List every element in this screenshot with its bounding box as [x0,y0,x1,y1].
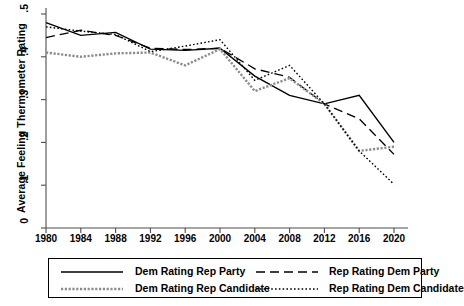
legend-swatch-0 [59,266,125,278]
legend-swatch-3 [254,283,320,295]
legend: Dem Rating Rep PartyRep Rating Dem Party… [48,258,422,298]
data-series-group [46,23,394,185]
legend-label-1: Rep Rating Dem Party [329,265,439,277]
legend-label-3: Rep Rating Dem Candidate [329,282,464,294]
axes [41,8,408,233]
series-line-3 [46,27,394,185]
legend-label-0: Dem Rating Rep Party [135,265,245,277]
legend-label-2: Dem Rating Rep Candidate [135,282,270,294]
legend-swatch-1 [254,266,320,278]
legend-swatch-2 [59,283,125,295]
